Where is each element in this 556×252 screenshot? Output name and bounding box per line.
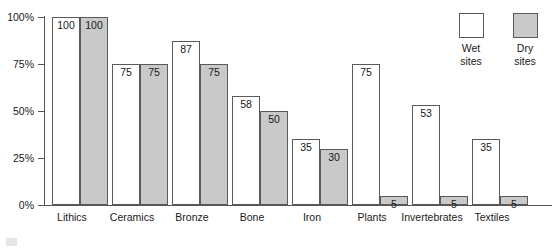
bar-textiles-dry[interactable]: 5 [500,196,528,205]
bar-group-lithics: 100 100 [52,17,108,205]
bar-value-bronze-wet: 87 [173,44,199,56]
bar-lithics-dry[interactable]: 100 [80,17,108,205]
bar-lithics-wet[interactable]: 100 [52,17,80,205]
bar-value-bone-dry: 50 [261,114,287,126]
bar-value-bronze-dry: 75 [201,67,227,79]
bar-plants-wet[interactable]: 75 [352,64,380,205]
bar-value-invertebrates-dry: 5 [441,199,467,211]
x-axis-line [44,205,552,206]
bar-ceramics-dry[interactable]: 75 [140,64,168,205]
bar-value-bone-wet: 58 [233,99,259,111]
bar-group-bone: 58 50 [232,17,288,205]
bar-iron-wet[interactable]: 35 [292,139,320,205]
bar-group-ceramics: 75 75 [112,17,168,205]
bar-bronze-wet[interactable]: 87 [172,41,200,205]
bar-plants-dry[interactable]: 5 [380,196,408,205]
legend-label-dry-line1: Dry [517,42,533,54]
bar-value-iron-wet: 35 [293,142,319,154]
gray-square-swatch-icon [513,13,538,38]
legend-label-wet-line2: sites [448,55,494,68]
bar-iron-dry[interactable]: 30 [320,149,348,205]
y-tick-label-50: 50% [0,106,34,117]
legend-label-dry-line2: sites [502,55,548,68]
white-square-swatch-icon [459,13,484,38]
bar-textiles-wet[interactable]: 35 [472,139,500,205]
legend-item-wet-sites[interactable]: Wet sites [448,13,494,68]
legend-item-dry-sites[interactable]: Dry sites [502,13,548,68]
bar-value-plants-dry: 5 [381,199,407,211]
bar-group-iron: 35 30 [292,17,348,205]
legend-label-dry-sites: Dry sites [502,42,548,68]
bar-value-textiles-wet: 35 [473,142,499,154]
bar-value-iron-dry: 30 [321,152,347,164]
bar-value-lithics-wet: 100 [53,20,79,32]
bar-ceramics-wet[interactable]: 75 [112,64,140,205]
corner-artifact-mark [6,238,17,246]
y-tick-label-100: 100% [0,12,34,23]
bar-invertebrates-dry[interactable]: 5 [440,196,468,205]
y-tick-label-0: 0% [0,200,34,211]
legend-label-wet-sites: Wet sites [448,42,494,68]
bar-group-bronze: 87 75 [172,17,228,205]
chart-legend: Wet sites Dry sites [448,13,552,75]
bar-group-plants: 75 5 [352,17,408,205]
bar-value-lithics-dry: 100 [81,20,107,32]
bar-bone-dry[interactable]: 50 [260,111,288,205]
y-tick-label-25: 25% [0,153,34,164]
bar-value-ceramics-dry: 75 [141,67,167,79]
bar-value-invertebrates-wet: 53 [413,108,439,120]
bar-bone-wet[interactable]: 58 [232,96,260,205]
bar-bronze-dry[interactable]: 75 [200,64,228,205]
bar-value-textiles-dry: 5 [501,199,527,211]
bar-invertebrates-wet[interactable]: 53 [412,105,440,205]
bar-value-ceramics-wet: 75 [113,67,139,79]
y-tick-label-75: 75% [0,59,34,70]
x-label-textiles: Textiles [448,212,536,224]
legend-label-wet-line1: Wet [462,42,480,54]
bar-chart: 100% 75% 50% 25% 0% 100 100 75 75 [0,0,556,252]
bar-value-plants-wet: 75 [353,67,379,79]
